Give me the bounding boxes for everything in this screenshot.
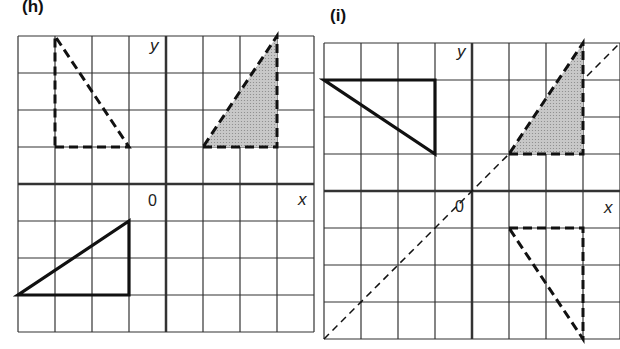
figure-canvas (0, 0, 620, 349)
